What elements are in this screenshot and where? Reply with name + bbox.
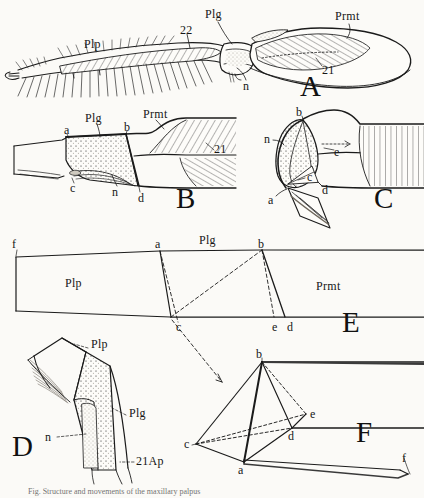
panel-letter-f: F	[356, 418, 372, 447]
panel-letter-b: B	[176, 184, 195, 213]
label-figf-f: f	[402, 452, 406, 464]
label-fige-a: a	[155, 238, 161, 250]
label-fige-plg: Plg	[199, 234, 216, 246]
label-figb-b: b	[124, 121, 130, 133]
label-figa-prmt: Prmt	[335, 10, 360, 22]
label-figf-a: a	[238, 464, 244, 476]
label-figc-n: n	[264, 133, 270, 145]
label-fige-b: b	[258, 238, 264, 250]
label-fige-e: e	[272, 321, 278, 333]
panel-letter-c: C	[374, 184, 393, 213]
label-figc-a: a	[268, 194, 274, 206]
label-figf-d: d	[288, 430, 294, 442]
label-figf-c: c	[184, 438, 190, 450]
label-figc-d: d	[322, 184, 328, 196]
label-figa-n: n	[243, 80, 249, 92]
label-figa-plg: Plg	[205, 8, 222, 20]
figure-f-drawing	[192, 358, 424, 478]
label-figa-22: 22	[180, 24, 193, 36]
label-figc-e: e	[334, 146, 340, 158]
label-figb-d: d	[138, 192, 144, 204]
label-figb-plg: Plg	[85, 112, 102, 124]
label-fige-prmt: Prmt	[316, 280, 341, 292]
figure-a-drawing	[5, 22, 410, 97]
label-figb-a: a	[64, 124, 70, 136]
label-figb-c: c	[70, 182, 76, 194]
label-figb-prmt: Prmt	[143, 108, 168, 120]
figure-c-drawing	[273, 110, 424, 228]
label-figb-21: 21	[214, 143, 227, 155]
label-fige-plp: Plp	[65, 277, 82, 289]
label-fige-c: c	[176, 321, 182, 333]
label-figf-b: b	[256, 348, 262, 360]
label-figb-n: n	[112, 186, 118, 198]
label-figa-21: 21	[322, 64, 335, 76]
figure-d-drawing	[28, 338, 134, 484]
label-figa-plp: Plp	[84, 38, 101, 50]
panel-letter-d: D	[12, 432, 33, 461]
panel-letter-a: A	[300, 72, 321, 101]
label-figd-plp: Plp	[91, 338, 108, 350]
label-fige-f: f	[12, 238, 16, 250]
label-figd-plg: Plg	[129, 407, 146, 419]
label-figc-b: b	[296, 106, 302, 118]
label-figf-e: e	[310, 408, 316, 420]
panel-letter-e: E	[342, 308, 360, 337]
label-figd-n: n	[45, 431, 51, 443]
illustration-plate: Plp 22 Plg Prmt 21 n Plg Prmt a b 21 c n…	[0, 0, 424, 498]
label-figd-21ap: 21Ap	[136, 455, 164, 467]
plate-caption: Fig. Structure and movements of the maxi…	[28, 487, 200, 496]
label-figc-c: c	[307, 171, 313, 183]
label-fige-d: d	[287, 321, 293, 333]
